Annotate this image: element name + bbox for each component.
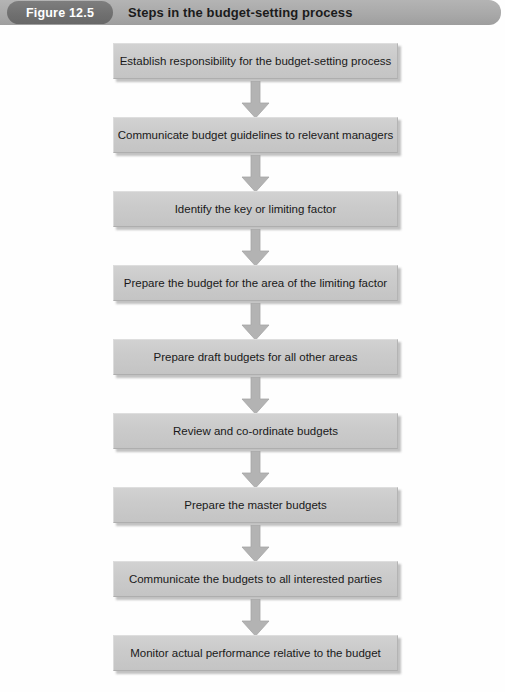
flow-step: Monitor actual performance relative to t… (113, 635, 398, 671)
flow-connector-arrow-down-icon (240, 377, 271, 415)
flow-connector-arrow-down-icon (240, 229, 271, 267)
flow-connector-arrow-down-icon (240, 525, 271, 563)
flow-step-label: Review and co-ordinate budgets (167, 425, 344, 438)
flow-connector-arrow-down-icon (240, 451, 271, 489)
flow-step-box: Prepare the master budgets (113, 487, 398, 523)
flow-step-box: Communicate the budgets to all intereste… (113, 561, 398, 597)
flow-step-box: Prepare draft budgets for all other area… (113, 339, 398, 375)
flow-connector-arrow-down-icon (240, 303, 271, 341)
flow-step-label: Monitor actual performance relative to t… (124, 647, 387, 660)
flow-step: Review and co-ordinate budgets (113, 413, 398, 449)
flow-step-label: Identify the key or limiting factor (169, 203, 343, 216)
flow-connector-arrow-down-icon (240, 81, 271, 119)
flow-step-box: Establish responsibility for the budget-… (113, 43, 398, 79)
figure-title: Steps in the budget-setting process (128, 0, 353, 25)
flow-step-label: Communicate the budgets to all intereste… (123, 573, 388, 586)
flow-step: Prepare the budget for the area of the l… (113, 265, 398, 301)
flow-step-box: Communicate budget guidelines to relevan… (113, 117, 398, 153)
flow-step-label: Establish responsibility for the budget-… (114, 55, 398, 68)
flow-step-label: Prepare the master budgets (178, 499, 333, 512)
flow-step-label: Communicate budget guidelines to relevan… (112, 129, 400, 142)
flow-step-box: Identify the key or limiting factor (113, 191, 398, 227)
flow-step-box: Review and co-ordinate budgets (113, 413, 398, 449)
flow-step: Prepare draft budgets for all other area… (113, 339, 398, 375)
figure-number-badge: Figure 12.5 (7, 1, 113, 24)
flow-step: Prepare the master budgets (113, 487, 398, 523)
flow-step: Communicate the budgets to all intereste… (113, 561, 398, 597)
flow-step-label: Prepare draft budgets for all other area… (148, 351, 364, 364)
flowchart: Establish responsibility for the budget-… (0, 25, 505, 685)
flow-connector-arrow-down-icon (240, 155, 271, 193)
flow-step: Identify the key or limiting factor (113, 191, 398, 227)
figure-number-label: Figure 12.5 (26, 6, 94, 20)
figure-header: Figure 12.5 Steps in the budget-setting … (0, 0, 505, 25)
flow-connector-arrow-down-icon (240, 599, 271, 637)
flow-step-box: Monitor actual performance relative to t… (113, 635, 398, 671)
flow-step: Communicate budget guidelines to relevan… (113, 117, 398, 153)
flow-step-label: Prepare the budget for the area of the l… (118, 277, 393, 290)
flow-step-box: Prepare the budget for the area of the l… (113, 265, 398, 301)
flow-step: Establish responsibility for the budget-… (113, 43, 398, 79)
